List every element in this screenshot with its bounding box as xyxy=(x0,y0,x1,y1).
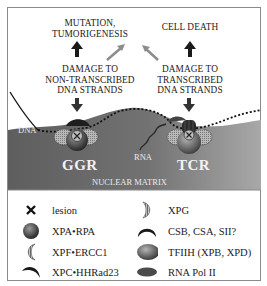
arrow-diagonal-gray-right-icon xyxy=(142,45,158,60)
arrow-up-left-icon xyxy=(71,41,83,57)
legend-item-xpc-hhrad23: XPC•HHRad23 xyxy=(20,263,119,281)
legend-item-xpg: XPG xyxy=(136,201,189,219)
arrow-up-right-icon xyxy=(184,41,196,57)
xpa-rpa-sphere-icon xyxy=(20,222,42,240)
rna-label: RNA xyxy=(134,152,152,162)
xpc-hhrad23-crescent-icon xyxy=(20,263,42,281)
csb-csa-arc-icon xyxy=(136,222,158,240)
legend-item-csb-csa: CSB, CSA, SII? xyxy=(136,222,236,240)
legend-label: XPF•ERCC1 xyxy=(52,247,108,258)
legend-item-xpf-ercc1: XPF•ERCC1 xyxy=(20,243,108,261)
legend-label: RNA Pol II xyxy=(168,267,216,278)
legend-label: lesion xyxy=(52,205,77,216)
tfiih-ellipse-icon xyxy=(136,243,158,261)
arrow-down-tcr-icon xyxy=(183,98,195,112)
legend-label: CSB, CSA, SII? xyxy=(168,226,236,237)
legend-label: XPA•RPA xyxy=(52,226,95,237)
rna-pol-ii-ellipse-icon xyxy=(136,263,158,281)
tcr-label: TCR xyxy=(177,157,210,174)
nuclear-matrix-label: NUCLEAR MATRIX xyxy=(92,177,167,187)
ggr-label: GGR xyxy=(62,157,98,174)
lesion-x-icon xyxy=(20,201,42,219)
arrow-diagonal-gray-left-icon xyxy=(107,44,125,60)
legend-label: XPG xyxy=(168,205,189,216)
legend-label: XPC•HHRad23 xyxy=(52,267,119,278)
xpg-crescent-icon xyxy=(136,201,158,219)
legend-item-rna-pol-ii: RNA Pol II xyxy=(136,263,216,281)
legend-label: TFIIH (XPB, XPD) xyxy=(168,247,251,258)
legend-item-tfiih: TFIIH (XPB, XPD) xyxy=(136,243,251,261)
xpf-ercc1-crescent-icon xyxy=(20,243,42,261)
legend-item-xpa-rpa: XPA•RPA xyxy=(20,222,95,240)
arrow-down-ggr-icon xyxy=(71,98,83,112)
dna-label: DNA xyxy=(18,125,36,135)
legend-item-lesion: lesion xyxy=(20,201,77,219)
